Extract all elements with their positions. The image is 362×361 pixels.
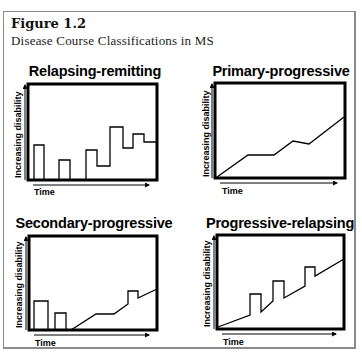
disability-course-line bbox=[71, 289, 157, 330]
relapse-bar bbox=[34, 145, 44, 180]
plots-canvas bbox=[0, 0, 362, 361]
relapse-bar bbox=[59, 160, 70, 180]
plot-box bbox=[217, 235, 344, 329]
relapse-bar bbox=[55, 313, 66, 330]
disability-course-line bbox=[218, 259, 344, 327]
relapse-bar bbox=[34, 301, 48, 330]
disability-course-line bbox=[217, 117, 344, 177]
plot-box bbox=[28, 84, 157, 180]
disability-course-line bbox=[86, 127, 157, 179]
